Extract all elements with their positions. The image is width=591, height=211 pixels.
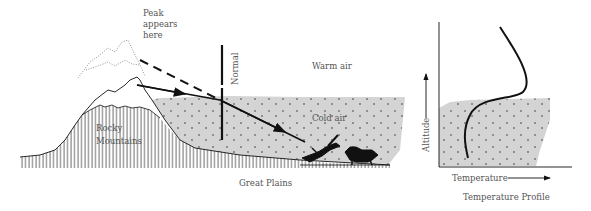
label-profile-caption: Temperature Profile xyxy=(463,192,550,202)
apparent-peak xyxy=(78,40,145,78)
temperature-profile: Altitude Temperature Temperature Profile xyxy=(421,22,572,202)
label-peak-1: Peak xyxy=(143,8,164,18)
label-warm-air: Warm air xyxy=(312,61,353,71)
label-mountains: Mountains xyxy=(96,136,142,146)
label-great-plains: Great Plains xyxy=(239,178,292,188)
label-normal: Normal xyxy=(230,52,240,85)
label-peak-3: here xyxy=(143,30,163,40)
label-altitude: Altitude xyxy=(421,118,431,153)
label-cold-air: Cold air xyxy=(312,113,347,123)
label-temperature: Temperature xyxy=(452,173,508,183)
apparent-ray xyxy=(140,60,220,100)
label-peak-2: appears xyxy=(143,19,177,29)
refraction-diagram: Peak appears here Normal Warm air Cold a… xyxy=(0,0,591,211)
label-rocky: Rocky xyxy=(96,123,122,133)
